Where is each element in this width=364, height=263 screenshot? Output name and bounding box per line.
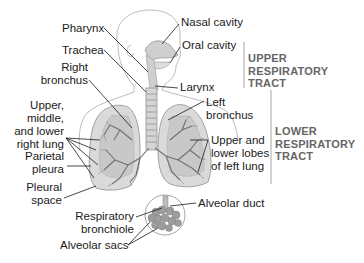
label-right-lung: Upper, middle, and lower right lung: [0, 99, 64, 151]
right-lung: [89, 105, 140, 190]
label-respiratory-bronchiole: Respiratory bronchiole: [70, 210, 134, 236]
label-parietal-pleura: Parietal pleura: [10, 150, 64, 176]
region-lower-respiratory-tract: LOWER RESPIRATORY TRACT: [275, 125, 355, 163]
label-pharynx: Pharynx: [62, 22, 102, 35]
label-left-bronchus: Left bronchus: [206, 96, 253, 122]
upper-airway: [145, 41, 178, 90]
label-pleural-space: Pleural space: [10, 181, 62, 207]
label-larynx: Larynx: [180, 81, 215, 94]
left-lung: [158, 105, 211, 187]
trachea: [146, 88, 157, 150]
respiratory-diagram: Pharynx Trachea Right bronchus Upper, mi…: [0, 0, 364, 263]
alveoli-inset: [145, 195, 185, 235]
label-trachea: Trachea: [62, 44, 102, 57]
label-nasal-cavity: Nasal cavity: [181, 16, 243, 29]
region-upper-respiratory-tract: UPPER RESPIRATORY TRACT: [248, 52, 328, 90]
label-alveolar-sacs: Alveolar sacs: [60, 239, 126, 252]
label-oral-cavity: Oral cavity: [182, 39, 236, 52]
label-left-lung: Upper and lower lobes of left lung: [211, 134, 269, 173]
label-alveolar-duct: Alveolar duct: [198, 197, 264, 210]
label-right-bronchus: Right bronchus: [40, 61, 88, 87]
